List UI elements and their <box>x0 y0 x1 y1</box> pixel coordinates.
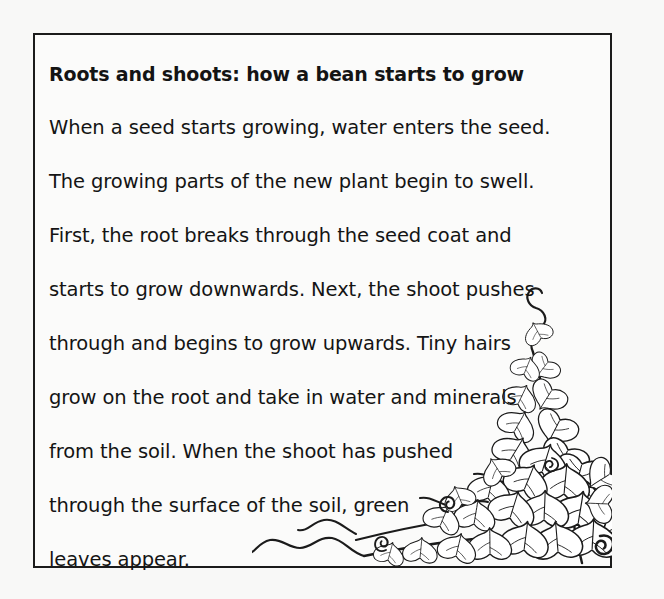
passage-line-3: First, the root breaks through the seed … <box>49 209 609 263</box>
passage-line-2: The growing parts of the new plant begin… <box>49 155 609 209</box>
passage-line-9: leaves appear. <box>49 533 609 587</box>
worksheet-page: Roots and shoots: how a bean starts to g… <box>0 0 664 599</box>
passage-text-box: Roots and shoots: how a bean starts to g… <box>33 33 612 568</box>
passage-line-7: from the soil. When the shoot has pushed <box>49 425 609 479</box>
passage-line-6: grow on the root and take in water and m… <box>49 371 609 425</box>
passage-text: Roots and shoots: how a bean starts to g… <box>49 47 609 587</box>
passage-line-8: through the surface of the soil, green <box>49 479 609 533</box>
passage-title: Roots and shoots: how a bean starts to g… <box>49 47 609 101</box>
passage-line-1: When a seed starts growing, water enters… <box>49 101 609 155</box>
passage-line-5: through and begins to grow upwards. Tiny… <box>49 317 609 371</box>
passage-line-4: starts to grow downwards. Next, the shoo… <box>49 263 609 317</box>
